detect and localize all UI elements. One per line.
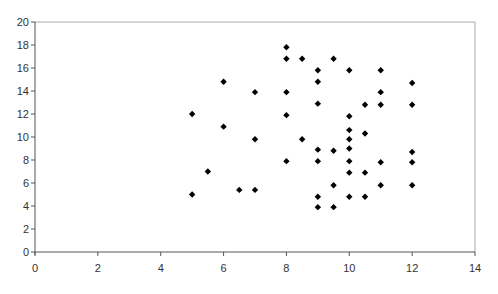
y-tick-label: 12 — [17, 108, 29, 120]
y-tick-label: 6 — [23, 177, 29, 189]
x-tick-label: 10 — [343, 262, 355, 274]
y-tick-label: 14 — [17, 85, 29, 97]
x-tick-label: 8 — [283, 262, 289, 274]
x-tick-label: 0 — [32, 262, 38, 274]
y-tick-label: 4 — [23, 200, 29, 212]
y-axis: 02468101214161820 — [17, 16, 35, 258]
y-tick-label: 16 — [17, 62, 29, 74]
y-tick-label: 20 — [17, 16, 29, 28]
cropped-caption — [0, 286, 498, 294]
x-tick-label: 2 — [95, 262, 101, 274]
scatter-chart: 02468101214161820 02468101214 — [0, 0, 498, 294]
y-tick-label: 0 — [23, 246, 29, 258]
x-axis: 02468101214 — [32, 252, 481, 274]
x-tick-label: 14 — [469, 262, 481, 274]
y-tick-label: 2 — [23, 223, 29, 235]
x-tick-label: 12 — [406, 262, 418, 274]
x-tick-label: 4 — [158, 262, 164, 274]
y-tick-label: 10 — [17, 131, 29, 143]
y-tick-label: 18 — [17, 39, 29, 51]
x-tick-label: 6 — [221, 262, 227, 274]
y-tick-label: 8 — [23, 154, 29, 166]
